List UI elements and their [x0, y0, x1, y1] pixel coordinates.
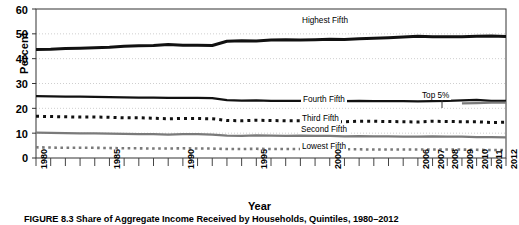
- figure-container: Percent 60 50 40 30 20 10 0 Highest Fift…: [0, 0, 519, 225]
- y-tick-60: 60: [2, 5, 28, 16]
- series-label-third-fifth: Third Fifth: [300, 115, 341, 123]
- y-tick-30: 30: [2, 79, 28, 90]
- x-tick-2009: 2009: [466, 149, 475, 169]
- x-tick-1995: 1995: [260, 149, 269, 169]
- y-tick-40: 40: [2, 54, 28, 65]
- x-tick-2011: 2011: [495, 149, 504, 169]
- x-tick-2007: 2007: [437, 149, 446, 169]
- series-label-highest-fifth: Highest Fifth: [300, 17, 350, 25]
- x-tick-1980: 1980: [40, 149, 49, 169]
- x-tick-1985: 1985: [113, 149, 122, 169]
- x-tick-1990: 1990: [187, 149, 196, 169]
- x-tick-2012: 2012: [510, 149, 519, 169]
- series-label-fourth-fifth: Fourth Fifth: [301, 96, 347, 104]
- income-share-line-chart: [0, 0, 519, 225]
- x-tick-2006: 2006: [422, 149, 431, 169]
- y-tick-0: 0: [2, 153, 28, 164]
- y-tick-50: 50: [2, 29, 28, 40]
- figure-caption: FIGURE 8.3 Share of Aggregate Income Rec…: [24, 214, 519, 225]
- x-tick-2000: 2000: [334, 149, 343, 169]
- y-tick-10: 10: [2, 129, 28, 140]
- x-tick-2008: 2008: [451, 149, 460, 169]
- series-label-second-fifth: Second Fifth: [299, 126, 349, 134]
- y-tick-20: 20: [2, 104, 28, 115]
- x-axis-title: Year: [0, 200, 519, 212]
- x-tick-2010: 2010: [481, 149, 490, 169]
- series-label-top-5: Top 5%: [420, 92, 451, 100]
